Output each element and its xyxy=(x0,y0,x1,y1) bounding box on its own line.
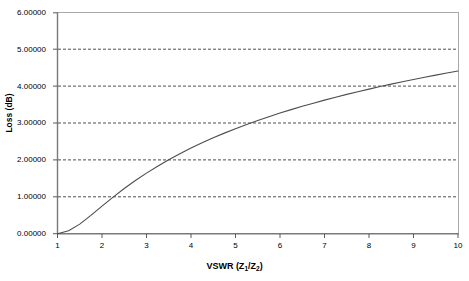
x-axis-title-close-paren: ) xyxy=(260,261,263,271)
x-tick-label-7: 7 xyxy=(315,241,335,250)
x-tick-label-1: 1 xyxy=(48,241,68,250)
y-tick-label-2: 2.00000 xyxy=(0,155,46,164)
y-tick-label-5: 5.00000 xyxy=(0,45,46,54)
chart-plot-area xyxy=(0,0,469,281)
x-tick-label-2: 2 xyxy=(92,241,112,250)
x-tick-label-3: 3 xyxy=(137,241,157,250)
x-tick-label-6: 6 xyxy=(270,241,290,250)
x-tick-label-8: 8 xyxy=(359,241,379,250)
x-axis-title-divider: /Z xyxy=(248,261,256,271)
y-tick-label-0: 0.00000 xyxy=(0,229,46,238)
x-tick-label-10: 10 xyxy=(448,241,468,250)
y-axis-title: Loss (dB) xyxy=(4,78,14,148)
x-axis-title: VSWR (Z1/Z2) xyxy=(0,261,469,271)
chart-container: 6.00000 5.00000 4.00000 3.00000 2.00000 … xyxy=(0,0,469,281)
x-tick-label-5: 5 xyxy=(226,241,246,250)
x-tick-label-9: 9 xyxy=(404,241,424,250)
y-tick-label-6: 6.00000 xyxy=(0,8,46,17)
x-axis-title-subscript-1: 1 xyxy=(244,265,248,272)
x-axis-title-subscript-2: 2 xyxy=(256,265,260,272)
x-tick-label-4: 4 xyxy=(181,241,201,250)
x-axis-title-main: VSWR (Z xyxy=(206,261,244,271)
y-tick-label-1: 1.00000 xyxy=(0,192,46,201)
